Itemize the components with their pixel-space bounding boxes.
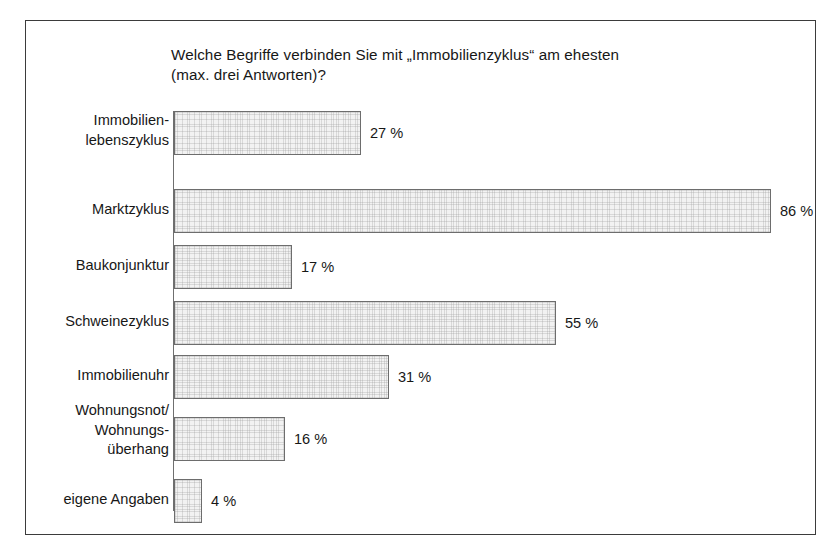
- chart-frame: Welche Begriffe verbinden Sie mit „Immob…: [25, 20, 816, 535]
- plot-area: Immobilien- lebenszyklus 27 % Marktzyklu…: [26, 97, 817, 527]
- bar-group: 86 %: [174, 189, 813, 233]
- bar[interactable]: [174, 301, 556, 345]
- category-label: eigene Angaben: [0, 490, 169, 510]
- bar-row: Baukonjunktur 17 %: [26, 245, 817, 289]
- category-label: Baukonjunktur: [0, 256, 169, 276]
- bar[interactable]: [174, 479, 202, 523]
- category-label: Immobilienuhr: [0, 366, 169, 386]
- category-label: Wohnungsnot/ Wohnungs- überhang: [0, 401, 169, 460]
- bar-row: Wohnungsnot/ Wohnungs- überhang 16 %: [26, 417, 817, 461]
- bar[interactable]: [174, 355, 389, 399]
- bar-value-label: 17 %: [301, 259, 334, 275]
- bar-value-label: 27 %: [370, 125, 403, 141]
- bar-row: eigene Angaben 4 %: [26, 479, 817, 523]
- chart-title: Welche Begriffe verbinden Sie mit „Immob…: [171, 45, 791, 85]
- bar-group: 31 %: [174, 355, 431, 399]
- bar-group: 4 %: [174, 479, 236, 523]
- bar[interactable]: [174, 417, 285, 461]
- bar-group: 27 %: [174, 111, 403, 155]
- bar-value-label: 55 %: [565, 315, 598, 331]
- bar-row: Marktzyklus 86 %: [26, 189, 817, 233]
- category-label: Marktzyklus: [0, 200, 169, 220]
- category-label: Immobilien- lebenszyklus: [0, 111, 169, 150]
- bar-group: 16 %: [174, 417, 327, 461]
- bar-row: Schweinezyklus 55 %: [26, 301, 817, 345]
- bar[interactable]: [174, 245, 292, 289]
- bar-group: 55 %: [174, 301, 598, 345]
- bar-row: Immobilien- lebenszyklus 27 %: [26, 111, 817, 155]
- bar[interactable]: [174, 189, 771, 233]
- bar-value-label: 16 %: [294, 431, 327, 447]
- bar-value-label: 31 %: [398, 369, 431, 385]
- bar-value-label: 86 %: [780, 203, 813, 219]
- category-label: Schweinezyklus: [0, 312, 169, 332]
- bar-group: 17 %: [174, 245, 334, 289]
- bar-row: Immobilienuhr 31 %: [26, 355, 817, 399]
- bar[interactable]: [174, 111, 361, 155]
- bar-value-label: 4 %: [211, 493, 236, 509]
